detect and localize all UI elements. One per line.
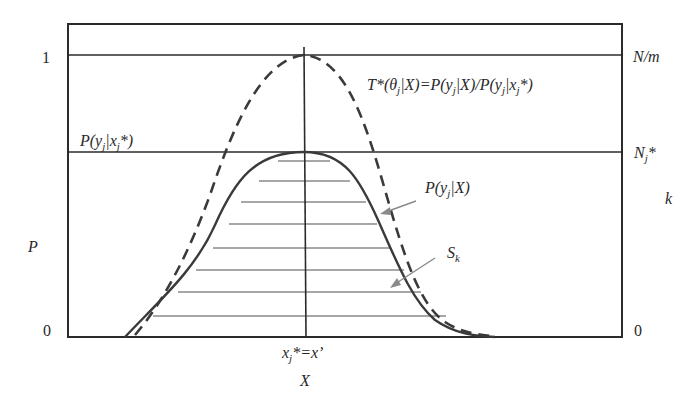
area-sk-label: Sk bbox=[447, 244, 461, 264]
x-axis-label: X bbox=[299, 372, 311, 389]
x-tick-xj-star: xj*=x’ bbox=[281, 344, 323, 364]
left-tick-one: 1 bbox=[42, 49, 50, 66]
left-tick-zero: 0 bbox=[43, 322, 51, 339]
probability-curve-label: P(yj|X) bbox=[424, 179, 470, 199]
pmax-level-label: P(yj|xj*) bbox=[79, 132, 133, 152]
area-hatch-lines bbox=[153, 161, 446, 316]
probability-curve-arrow bbox=[380, 201, 416, 215]
right-tick-nj-star: Nj* bbox=[633, 144, 656, 164]
probability-truth-function-diagram: 1 P 0 P(yj|xj*) N/m Nj* k 0 xj*=x’ X T*(… bbox=[0, 0, 695, 408]
left-axis-label: P bbox=[27, 238, 38, 255]
right-axis-label: k bbox=[665, 190, 673, 207]
truth-function-label: T*(θj|X)=P(yj|X)/P(yj|xj*) bbox=[367, 76, 533, 96]
right-tick-n-over-m: N/m bbox=[632, 48, 660, 65]
right-tick-zero: 0 bbox=[634, 322, 642, 339]
xj-star-marker-line bbox=[304, 47, 306, 337]
